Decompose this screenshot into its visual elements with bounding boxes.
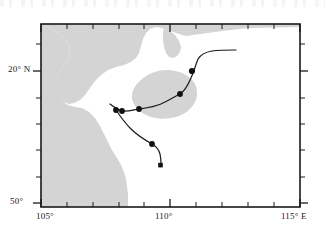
track-point-marker[interactable]	[177, 91, 183, 97]
hainan-island-landmass	[132, 70, 197, 119]
track-point-marker[interactable]	[149, 141, 155, 147]
track-point-marker[interactable]	[119, 108, 125, 114]
x-axis-label-110e: 110°	[155, 211, 173, 221]
branch-track-line[interactable]	[116, 110, 161, 165]
track-point-marker[interactable]	[113, 107, 119, 113]
x-axis-label-115e: 115° E	[281, 211, 307, 221]
y-axis-label-bottom: 50°	[10, 196, 23, 206]
y-axis-label-20n: 20° N	[8, 64, 30, 74]
track-endpoint-marker[interactable]	[158, 163, 163, 168]
typhoon-track-map-figure: 20° N 50° 105° 110° 115° E	[0, 0, 325, 241]
land-layer	[41, 24, 300, 207]
track-point-marker[interactable]	[136, 106, 142, 112]
x-axis-label-105e: 105°	[36, 211, 54, 221]
track-point-marker[interactable]	[189, 68, 195, 74]
map-canvas	[0, 0, 325, 241]
